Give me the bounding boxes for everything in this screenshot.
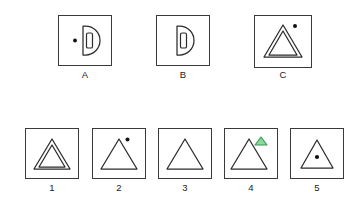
small-green-triangle-upper-right — [255, 137, 267, 145]
answer-option-2[interactable]: 2 — [92, 128, 146, 179]
inner-vertical-rounded-bar — [87, 33, 93, 48]
answer-label-2: 2 — [92, 182, 146, 193]
figure-double-triangle-with-dot — [254, 15, 312, 68]
figure-d-shape-with-left-dot — [58, 15, 112, 66]
outer-triangle-outline — [34, 139, 70, 169]
answer-option-5[interactable]: 5 — [290, 128, 344, 179]
answer-label-5: 5 — [290, 182, 344, 193]
figure-triangle-with-green-triangle — [224, 128, 278, 179]
half-disc-d-outline — [177, 26, 194, 55]
answer-option-1[interactable]: 1 — [25, 128, 79, 179]
dot-upper-right — [293, 24, 297, 28]
figure-triangle-with-dot — [92, 128, 146, 179]
half-disc-d-outline — [83, 26, 100, 55]
answer-label-3: 3 — [158, 182, 212, 193]
figure-double-triangle — [25, 128, 79, 179]
prompt-cell-c[interactable]: C — [254, 15, 312, 68]
answer-label-4: 4 — [224, 182, 278, 193]
puzzle-canvas: A B C — [0, 0, 353, 201]
cell-label-c: C — [254, 69, 312, 80]
figure-plain-triangle — [158, 128, 212, 179]
triangle-outline — [101, 139, 137, 169]
answer-option-4[interactable]: 4 — [224, 128, 278, 179]
dot-left-outside — [73, 39, 77, 43]
figure-triangle-with-inner-dot — [290, 128, 344, 179]
inner-triangle-outline — [39, 145, 65, 167]
outer-triangle-outline — [264, 25, 302, 57]
inner-triangle-outline — [269, 31, 297, 55]
inner-vertical-rounded-bar — [181, 33, 187, 48]
answer-option-3[interactable]: 3 — [158, 128, 212, 179]
triangle-outline — [167, 139, 203, 169]
prompt-cell-a[interactable]: A — [58, 15, 112, 66]
figure-d-shape — [156, 15, 210, 66]
triangle-outline — [301, 140, 333, 168]
cell-label-a: A — [58, 69, 112, 80]
dot-inside-center — [315, 155, 319, 159]
prompt-cell-b[interactable]: B — [156, 15, 210, 66]
cell-label-b: B — [156, 69, 210, 80]
answer-label-1: 1 — [25, 182, 79, 193]
dot-upper-right — [126, 138, 130, 142]
